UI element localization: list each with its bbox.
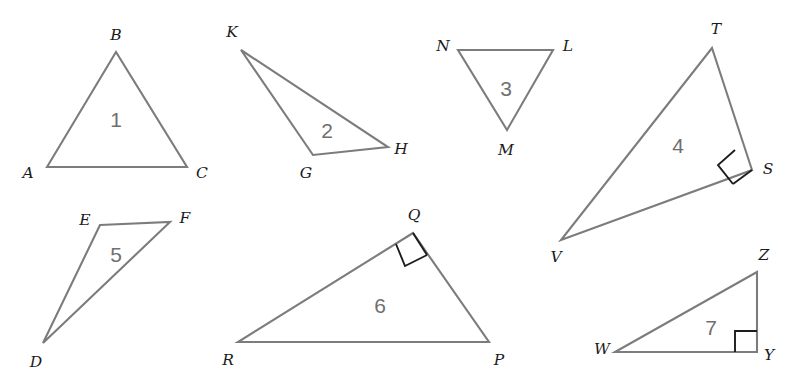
triangle-2-outline [241, 50, 388, 155]
vertex-label-v: V [550, 250, 561, 266]
vertex-label-q: Q [408, 208, 421, 224]
vertex-label-b: B [110, 28, 121, 44]
triangle-4-outline [561, 48, 752, 240]
triangle-5-outline [43, 222, 170, 343]
vertex-label-w: W [594, 342, 610, 358]
vertex-label-s: S [763, 162, 774, 178]
vertex-label-c: C [196, 166, 208, 182]
vertex-label-a: A [22, 166, 33, 182]
triangle-number-5: 5 [110, 244, 122, 265]
vertex-label-l: L [563, 39, 573, 55]
vertex-label-z: Z [759, 248, 770, 264]
triangle-6-outline [238, 233, 489, 342]
triangle-number-1: 1 [110, 109, 122, 130]
vertex-label-t: T [711, 22, 721, 38]
triangles-canvas [0, 0, 793, 390]
triangle-number-4: 4 [672, 135, 684, 156]
vertex-label-f: F [180, 211, 191, 227]
right-angle-mark-q-edge [413, 233, 427, 255]
triangle-number-7: 7 [705, 317, 717, 338]
vertex-label-p: P [494, 353, 504, 369]
triangle-number-3: 3 [500, 78, 512, 99]
vertex-label-e: E [79, 213, 90, 229]
right-angle-mark-y [735, 331, 757, 352]
vertex-label-r: R [222, 353, 234, 369]
vertex-label-y: Y [764, 348, 774, 364]
triangles-figure: A B C 1 K G H 2 N L M 3 T S V 4 E F D 5 … [0, 0, 793, 390]
vertex-label-m: M [498, 143, 514, 159]
vertex-label-g: G [300, 166, 312, 182]
triangle-number-6: 6 [374, 295, 386, 316]
vertex-label-d: D [30, 355, 42, 371]
vertex-label-n: N [436, 39, 450, 55]
vertex-label-h: H [394, 142, 408, 158]
triangle-number-2: 2 [321, 120, 333, 141]
vertex-label-k: K [226, 25, 238, 41]
